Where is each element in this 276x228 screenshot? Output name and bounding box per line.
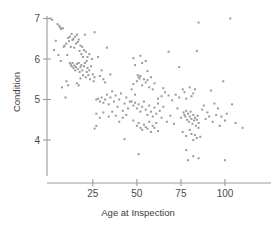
data-point xyxy=(189,116,191,118)
data-point xyxy=(148,105,150,107)
data-point xyxy=(168,94,170,96)
data-point xyxy=(73,64,75,66)
data-point xyxy=(76,34,78,36)
data-point xyxy=(60,60,62,62)
data-point xyxy=(73,47,75,49)
data-point xyxy=(53,49,55,51)
data-point xyxy=(192,139,194,141)
data-point xyxy=(72,38,74,40)
data-point xyxy=(77,41,79,43)
data-point xyxy=(196,119,198,121)
data-point xyxy=(60,28,62,30)
x-tick-label: 100 xyxy=(217,188,234,199)
data-point xyxy=(192,92,194,94)
data-point xyxy=(83,65,85,67)
data-point xyxy=(139,77,141,79)
data-point xyxy=(138,153,140,155)
data-point xyxy=(122,110,124,112)
data-point xyxy=(134,102,136,104)
data-point xyxy=(136,80,138,82)
data-point xyxy=(146,79,148,81)
data-point xyxy=(93,80,95,82)
data-point xyxy=(178,66,180,68)
data-point xyxy=(217,107,219,109)
data-point xyxy=(153,82,155,84)
data-point xyxy=(222,80,224,82)
data-point xyxy=(183,111,185,113)
data-point xyxy=(79,66,81,68)
data-point xyxy=(198,157,200,159)
data-point xyxy=(206,111,208,113)
data-point xyxy=(87,67,89,69)
data-point xyxy=(141,106,143,108)
data-point xyxy=(185,110,187,112)
data-point xyxy=(166,121,168,123)
data-point xyxy=(184,116,186,118)
data-point xyxy=(138,122,140,124)
data-point xyxy=(57,23,59,25)
x-tick-label: 50 xyxy=(131,188,143,199)
data-point xyxy=(115,115,117,117)
data-point xyxy=(146,70,148,72)
data-point xyxy=(108,103,110,105)
data-point xyxy=(75,43,77,45)
data-point xyxy=(84,34,86,36)
data-point xyxy=(196,50,198,52)
data-point xyxy=(192,114,194,116)
data-point xyxy=(79,71,81,73)
data-point xyxy=(79,50,81,52)
data-point xyxy=(235,122,237,124)
data-point xyxy=(224,120,226,122)
data-point xyxy=(67,37,69,39)
data-point xyxy=(106,94,108,96)
data-point xyxy=(79,45,81,47)
data-point xyxy=(131,88,133,90)
y-tick-label: 4 xyxy=(34,135,40,146)
data-point xyxy=(139,111,141,113)
y-tick-label: 6 xyxy=(34,54,40,65)
data-point xyxy=(68,40,70,42)
data-point xyxy=(109,73,111,75)
data-point xyxy=(152,88,154,90)
data-point xyxy=(150,111,152,113)
data-point xyxy=(80,53,82,55)
data-point xyxy=(57,54,59,56)
data-point xyxy=(99,117,101,119)
data-point xyxy=(85,76,87,78)
data-point xyxy=(139,55,141,57)
data-point xyxy=(74,69,76,71)
data-point xyxy=(182,131,184,133)
data-point xyxy=(97,98,99,100)
data-point xyxy=(219,125,221,127)
data-point xyxy=(82,56,84,58)
data-point xyxy=(64,45,66,47)
data-point xyxy=(137,74,139,76)
data-point xyxy=(72,62,74,64)
data-point xyxy=(120,92,122,94)
data-point xyxy=(134,64,136,66)
data-point xyxy=(178,96,180,98)
data-point xyxy=(194,117,196,119)
data-point xyxy=(111,111,113,113)
data-point xyxy=(157,130,159,132)
data-point xyxy=(186,119,188,121)
data-point xyxy=(125,114,127,116)
data-point xyxy=(65,43,67,45)
data-point xyxy=(77,68,79,70)
y-tick-label: 7 xyxy=(34,13,40,24)
data-point xyxy=(55,40,57,42)
data-point xyxy=(187,113,189,115)
data-point xyxy=(231,103,233,105)
data-point xyxy=(132,57,134,59)
data-point xyxy=(150,131,152,133)
data-point xyxy=(185,98,187,100)
data-point xyxy=(81,69,83,71)
data-point xyxy=(87,74,89,76)
data-point xyxy=(136,125,138,127)
data-point xyxy=(145,60,147,62)
data-point xyxy=(85,51,87,53)
x-axis-title: Age at Inspection xyxy=(101,207,174,218)
data-point xyxy=(155,122,157,124)
data-point xyxy=(80,64,82,66)
data-point xyxy=(189,86,191,88)
